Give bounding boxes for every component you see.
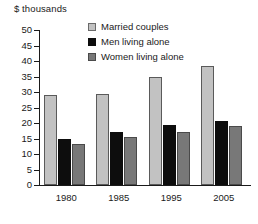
y-axis-tick <box>34 108 39 109</box>
bar <box>110 132 123 185</box>
y-axis-tick <box>34 154 39 155</box>
bar-chart: $ thousands 50454035302520151050 1980198… <box>0 0 258 224</box>
bar <box>201 66 214 185</box>
bar <box>149 77 162 186</box>
y-axis-tick <box>34 30 39 31</box>
legend-item: Married couples <box>88 20 184 34</box>
legend-swatch-icon <box>88 53 96 61</box>
legend-item: Men living alone <box>88 35 184 49</box>
x-axis-tick-label: 2005 <box>198 193 251 203</box>
x-axis-tick-label: 1980 <box>40 193 93 203</box>
y-axis-tick <box>34 170 39 171</box>
y-axis-tick <box>34 77 39 78</box>
bar <box>96 94 109 185</box>
y-axis-tick <box>34 185 39 186</box>
y-axis-tick-label: 5 <box>8 165 32 175</box>
bar <box>177 132 190 185</box>
legend-label: Married couples <box>101 22 169 32</box>
bar <box>44 95 57 185</box>
y-axis-tick <box>34 139 39 140</box>
bar-group <box>198 30 251 185</box>
bar <box>163 125 176 185</box>
y-axis-tick <box>34 46 39 47</box>
y-axis-tick-label: 10 <box>8 149 32 159</box>
y-axis-tick-label: 40 <box>8 56 32 66</box>
chart-title: $ thousands <box>14 3 67 14</box>
y-axis-tick <box>34 92 39 93</box>
x-axis-tick-label: 1985 <box>93 193 146 203</box>
bar <box>72 144 85 185</box>
y-axis-tick-label: 25 <box>8 103 32 113</box>
legend-swatch-icon <box>88 23 96 31</box>
legend-item: Women living alone <box>88 50 184 64</box>
legend-label: Women living alone <box>101 52 184 62</box>
legend-label: Men living alone <box>101 37 170 47</box>
x-axis-tick-label: 1995 <box>145 193 198 203</box>
bar <box>215 121 228 185</box>
y-axis-tick <box>34 123 39 124</box>
y-axis-tick-label: 30 <box>8 87 32 97</box>
y-axis-tick-label: 15 <box>8 134 32 144</box>
bar <box>124 137 137 185</box>
bar <box>58 139 71 185</box>
legend-swatch-icon <box>88 38 96 46</box>
x-axis-line <box>39 185 251 186</box>
y-axis-tick-label: 0 <box>8 180 32 190</box>
bar <box>229 126 242 185</box>
y-axis-tick-label: 20 <box>8 118 32 128</box>
y-axis-tick-label: 50 <box>8 25 32 35</box>
y-axis-tick-label: 35 <box>8 72 32 82</box>
chart-legend: Married couplesMen living aloneWomen liv… <box>88 20 184 65</box>
y-axis-tick <box>34 61 39 62</box>
y-axis-tick-label: 45 <box>8 41 32 51</box>
bar-group <box>40 30 93 185</box>
